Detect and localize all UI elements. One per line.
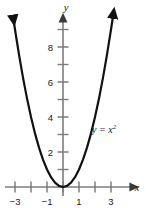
parabola-plot: −3 −1 1 3 x 2 4 xyxy=(0,0,146,208)
y-axis: 2 4 6 8 y xyxy=(48,2,69,196)
function-label: y = x2 xyxy=(91,123,117,135)
function-label-exponent: 2 xyxy=(113,123,117,131)
y-axis-label: y xyxy=(63,2,69,13)
y-tick-label-6: 6 xyxy=(48,77,53,88)
x-tick-label--1: −1 xyxy=(42,196,53,207)
x-tick-label--3: −3 xyxy=(10,196,21,207)
y-tick-label-2: 2 xyxy=(48,147,53,158)
graph-figure: −3 −1 1 3 x 2 4 xyxy=(0,0,146,208)
y-tick-label-4: 4 xyxy=(48,112,53,123)
x-tick-label-3: 3 xyxy=(108,196,113,207)
y-tick-label-8: 8 xyxy=(48,42,53,53)
x-tick-label-1: 1 xyxy=(76,196,81,207)
x-axis: −3 −1 1 3 x xyxy=(5,182,140,208)
function-label-text: y = x xyxy=(91,124,113,135)
x-axis-label: x xyxy=(134,182,140,193)
